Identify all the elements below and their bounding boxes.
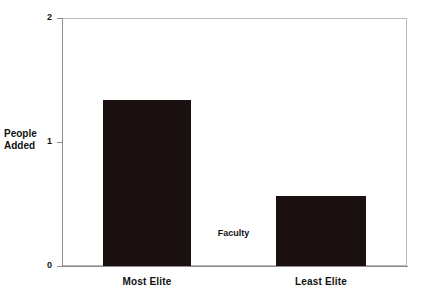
x-axis-line <box>62 266 408 267</box>
faculty-annotation: Faculty <box>191 224 276 244</box>
faculty-annotation-label: Faculty <box>214 228 254 238</box>
y-tick-mark-0 <box>57 266 62 267</box>
bar-chart: 2 1 0 People Added Most Elite Least Elit… <box>0 0 423 302</box>
y-axis-title: People Added <box>4 128 54 152</box>
y-axis-line <box>62 18 63 267</box>
y-tick-label-2: 2 <box>22 12 52 22</box>
y-axis-title-line-1: People <box>4 128 54 140</box>
y-tick-label-0: 0 <box>22 260 52 270</box>
y-tick-mark-1 <box>57 142 62 143</box>
x-category-label-most-elite: Most Elite <box>97 276 197 287</box>
bar-most-elite <box>103 100 191 266</box>
bar-least-elite <box>276 196 366 266</box>
y-tick-mark-2 <box>57 18 62 19</box>
x-category-label-least-elite: Least Elite <box>271 276 371 287</box>
y-axis-title-line-2: Added <box>4 140 54 152</box>
faculty-annotation-label-wrap: Faculty <box>191 227 276 239</box>
